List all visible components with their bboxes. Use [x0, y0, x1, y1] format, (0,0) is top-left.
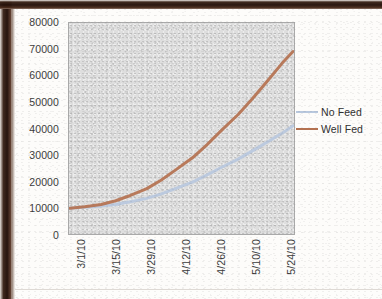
y-tick-label: 80000	[29, 16, 59, 28]
x-axis-labels: 3/1/10 3/15/10 3/29/10 4/12/10 4/26/10 5…	[68, 237, 295, 292]
plot-area	[68, 22, 295, 235]
series-line	[70, 51, 293, 208]
legend-item-well-fed: Well Fed	[296, 120, 382, 137]
x-tick-label: 3/1/10	[75, 239, 87, 269]
y-tick-label: 40000	[29, 123, 59, 135]
legend-swatch-icon	[296, 111, 318, 113]
y-tick-label: 10000	[29, 202, 59, 214]
page-bottom-rule	[15, 289, 382, 290]
x-tick-label: 3/29/10	[145, 239, 157, 275]
series-lines	[69, 23, 294, 234]
scan-binding-highlight	[12, 7, 15, 299]
x-tick-label: 3/15/10	[110, 239, 122, 275]
scanned-chart-page: 80000 70000 60000 50000 40000 30000 2000…	[0, 0, 382, 299]
y-tick-label: 0	[53, 229, 59, 241]
legend-label: Well Fed	[321, 123, 363, 135]
legend-swatch-icon	[296, 128, 318, 130]
y-tick-label: 50000	[29, 96, 59, 108]
y-tick-label: 70000	[29, 43, 59, 55]
y-tick-label: 30000	[29, 149, 59, 161]
y-axis-labels: 80000 70000 60000 50000 40000 30000 2000…	[15, 22, 63, 235]
scan-binding-edge-left	[0, 0, 12, 299]
x-tick-label: 5/10/10	[250, 239, 262, 275]
y-tick-label: 60000	[29, 69, 59, 81]
legend-item-no-feed: No Feed	[296, 103, 382, 120]
legend-label: No Feed	[321, 106, 362, 118]
x-tick-label: 4/12/10	[180, 239, 192, 275]
scan-binding-edge-top	[0, 0, 382, 9]
x-tick-label: 4/26/10	[215, 239, 227, 275]
line-chart: 80000 70000 60000 50000 40000 30000 2000…	[15, 9, 382, 290]
x-tick-label: 5/24/10	[285, 239, 297, 275]
chart-legend: No Feed Well Fed	[296, 103, 382, 137]
y-tick-label: 20000	[29, 176, 59, 188]
